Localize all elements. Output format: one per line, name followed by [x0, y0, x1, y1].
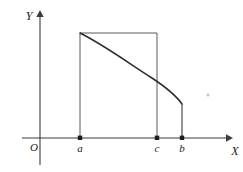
x-axis-arrowhead — [226, 134, 233, 142]
geometry-diagram: Y X O a c b — [0, 0, 243, 172]
tick-dot-b — [180, 136, 184, 140]
x-axis-label: X — [230, 144, 239, 158]
x-mark-label-a: a — [77, 142, 83, 154]
y-axis-label: Y — [26, 9, 34, 23]
scan-speck — [206, 93, 209, 96]
x-mark-label-c: c — [155, 142, 160, 154]
tick-dot-c — [155, 136, 159, 140]
origin-label: O — [30, 141, 38, 153]
figure-canvas: Y X O a c b — [0, 0, 243, 172]
x-mark-label-b: b — [179, 142, 185, 154]
rectangle-top-right-edges — [80, 33, 157, 138]
decreasing-curve — [80, 33, 182, 104]
tick-dot-a — [78, 136, 82, 140]
y-axis-arrowhead — [36, 10, 43, 17]
